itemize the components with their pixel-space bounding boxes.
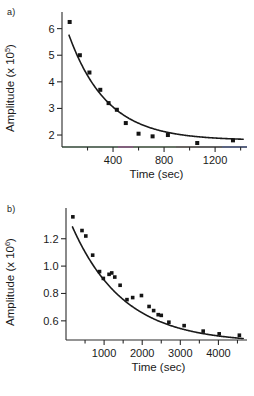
svg-text:Time (sec): Time (sec) [130,168,184,180]
svg-text:2: 2 [48,129,54,141]
svg-text:Amplitude (x 105): Amplitude (x 105) [3,44,16,132]
svg-text:0.8: 0.8 [43,287,58,299]
svg-text:1200: 1200 [203,154,227,166]
svg-text:Time (sec): Time (sec) [132,361,186,373]
panel-a: a) 234564008001200Time (sec)Amplitude (x… [0,0,254,198]
svg-text:4000: 4000 [206,347,230,359]
svg-text:3000: 3000 [168,347,192,359]
svg-text:800: 800 [155,154,173,166]
svg-text:1.0: 1.0 [43,260,58,272]
figure-container: a) 234564008001200Time (sec)Amplitude (x… [0,0,254,396]
svg-text:3: 3 [48,102,54,114]
svg-text:4: 4 [48,76,54,88]
svg-text:6: 6 [48,23,54,35]
svg-text:5: 5 [48,49,54,61]
svg-text:0.6: 0.6 [43,315,58,327]
svg-text:400: 400 [104,154,122,166]
svg-text:2000: 2000 [130,347,154,359]
panel-a-plot: 234564008001200Time (sec)Amplitude (x 10… [0,0,254,198]
panel-b: b) 0.60.81.01.21000200030004000Time (sec… [0,198,254,396]
svg-text:1000: 1000 [92,347,116,359]
svg-text:1.2: 1.2 [43,233,58,245]
svg-text:Amplitude (x 106): Amplitude (x 106) [3,238,16,326]
panel-b-plot: 0.60.81.01.21000200030004000Time (sec)Am… [0,198,254,396]
